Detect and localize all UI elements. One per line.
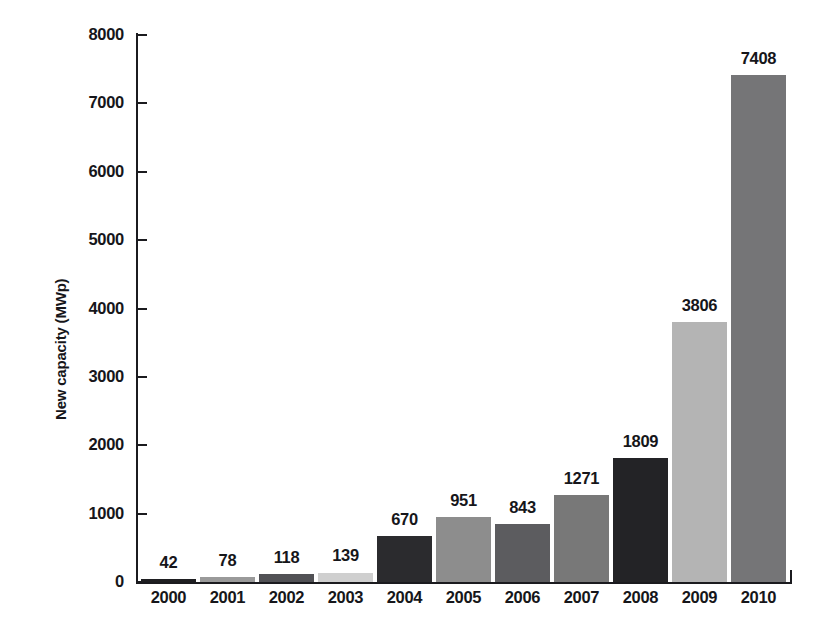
- bar[interactable]: [259, 574, 314, 582]
- bar-value-label: 139: [306, 546, 385, 565]
- bar[interactable]: [318, 573, 373, 583]
- x-axis-tick-label: 2010: [719, 588, 798, 607]
- bar-value-label: 843: [483, 498, 562, 517]
- bar-value-label: 3806: [660, 296, 739, 315]
- bar[interactable]: [377, 536, 432, 582]
- bar-value-label: 670: [365, 510, 444, 529]
- bar-value-label: 7408: [719, 49, 798, 68]
- bar[interactable]: [495, 524, 550, 582]
- bar[interactable]: [554, 495, 609, 582]
- bar-value-label: 1271: [542, 469, 621, 488]
- bars-layer: 4220007820011182002139200367020049512005…: [0, 0, 822, 636]
- bar[interactable]: [436, 517, 491, 582]
- bar[interactable]: [672, 322, 727, 582]
- bar-chart: New capacity (MWp) 010002000300040005000…: [0, 0, 822, 636]
- bar[interactable]: [141, 579, 196, 582]
- bar[interactable]: [613, 458, 668, 582]
- bar[interactable]: [731, 75, 786, 582]
- bar-value-label: 1809: [601, 432, 680, 451]
- bar[interactable]: [200, 577, 255, 582]
